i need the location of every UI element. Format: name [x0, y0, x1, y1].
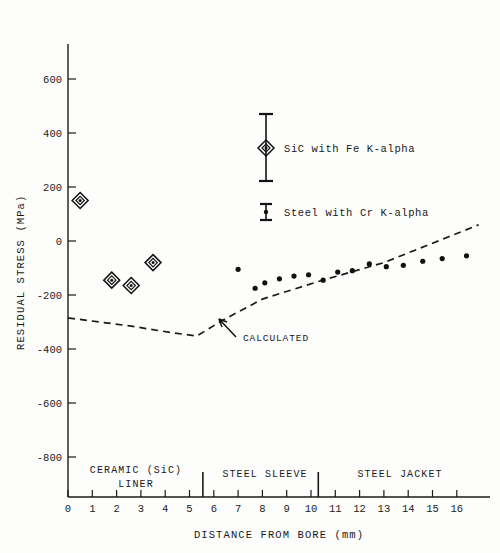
- legend-label-sic-fe: SiC with Fe K-alpha: [284, 143, 415, 155]
- data-point-steel-6: [321, 278, 326, 283]
- data-point-steel-1: [253, 286, 258, 291]
- axes: [68, 44, 490, 497]
- series-steel-cr-markers: [236, 253, 470, 291]
- y-ticklabel-m600: -600: [37, 398, 62, 410]
- x-ticklabel-9: 9: [284, 503, 290, 515]
- calculated-curve: [68, 225, 479, 336]
- x-ticklabel-6: 6: [211, 503, 217, 515]
- data-point-steel-2: [262, 280, 267, 285]
- legend-steel-dot-marker: [264, 210, 268, 214]
- calculated-arrow-shaft: [219, 319, 236, 337]
- data-point-steel-13: [440, 256, 445, 261]
- x-ticklabel-3: 3: [138, 503, 144, 515]
- x-ticklabel-5: 5: [186, 503, 192, 515]
- residual-stress-chart: 600 400 200 0 -200 -400 -600 -800 RESIDU…: [0, 0, 500, 553]
- x-ticklabel-4: 4: [162, 503, 168, 515]
- legend-item-steel-cr: Steel with Cr K-alpha: [260, 204, 429, 220]
- data-point-steel-7: [335, 269, 340, 274]
- y-axis-title: RESIDUAL STRESS (MPa): [15, 195, 27, 350]
- x-ticklabel-2: 2: [113, 503, 119, 515]
- data-point-steel-5: [306, 272, 311, 277]
- data-point-steel-3: [277, 276, 282, 281]
- data-point-sic-3: [145, 255, 161, 271]
- y-ticklabel-400: 400: [43, 128, 62, 140]
- chart-figure: 600 400 200 0 -200 -400 -600 -800 RESIDU…: [0, 0, 500, 553]
- x-ticklabel-11: 11: [329, 503, 342, 515]
- data-point-steel-14: [464, 253, 469, 258]
- data-point-steel-8: [350, 268, 355, 273]
- region-label-ceramic-liner-line1: CERAMIC (SiC): [90, 465, 182, 476]
- x-ticklabel-7: 7: [235, 503, 241, 515]
- region-labels: CERAMIC (SiC) LINER STEEL SLEEVE STEEL J…: [90, 465, 443, 490]
- y-ticklabel-m400: -400: [37, 344, 62, 356]
- x-ticklabel-10: 10: [305, 503, 318, 515]
- calculated-label: CALCULATED: [243, 333, 309, 344]
- x-ticklabel-15: 15: [426, 503, 439, 515]
- x-axis-title: DISTANCE FROM BORE (mm): [194, 529, 364, 541]
- data-point-steel-0: [236, 267, 241, 272]
- x-ticklabel-13: 13: [378, 503, 391, 515]
- x-ticklabel-0: 0: [65, 503, 71, 515]
- x-ticklabel-8: 8: [259, 503, 265, 515]
- y-ticklabel-m800: -800: [37, 452, 62, 464]
- y-ticklabel-600: 600: [43, 74, 62, 86]
- data-point-sic-1: [104, 272, 120, 288]
- y-ticklabel-200: 200: [43, 182, 62, 194]
- data-point-sic-2: [123, 278, 139, 294]
- y-ticklabel-m200: -200: [37, 290, 62, 302]
- legend-item-sic-fe: SiC with Fe K-alpha: [258, 114, 415, 181]
- data-point-steel-9: [367, 261, 372, 266]
- legend: SiC with Fe K-alpha Steel with Cr K-alph…: [258, 114, 429, 220]
- legend-label-steel-cr: Steel with Cr K-alpha: [284, 207, 429, 219]
- data-point-steel-11: [401, 263, 406, 268]
- region-label-steel-sleeve: STEEL SLEEVE: [222, 469, 307, 480]
- data-point-steel-12: [420, 259, 425, 264]
- data-point-sic-0: [72, 193, 88, 209]
- y-ticklabel-0: 0: [56, 236, 62, 248]
- data-point-steel-4: [291, 274, 296, 279]
- calculated-annotation: CALCULATED: [219, 319, 309, 344]
- x-ticklabel-14: 14: [402, 503, 415, 515]
- data-point-steel-10: [384, 264, 389, 269]
- series-sic-fe-markers: [72, 193, 161, 294]
- x-axis-ticks: 012345678910111213141516: [65, 490, 463, 515]
- region-label-steel-jacket: STEEL JACKET: [357, 469, 442, 480]
- region-label-ceramic-liner-line2: LINER: [118, 479, 154, 490]
- y-axis-ticks: 600 400 200 0 -200 -400 -600 -800: [37, 74, 76, 464]
- x-ticklabel-16: 16: [450, 503, 463, 515]
- x-ticklabel-1: 1: [89, 503, 95, 515]
- x-ticklabel-12: 12: [353, 503, 366, 515]
